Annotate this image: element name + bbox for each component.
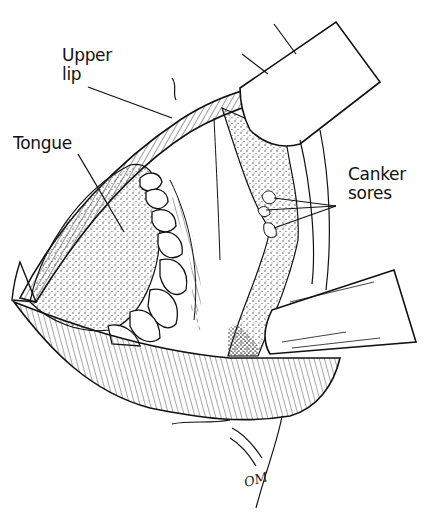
chin xyxy=(172,416,282,508)
label-upper-lip: Upper lip xyxy=(62,46,112,84)
lower-retractor xyxy=(265,270,416,354)
upper-retractor xyxy=(240,22,380,146)
label-canker-line1: Canker xyxy=(348,165,406,184)
label-tongue: Tongue xyxy=(13,134,72,153)
label-upper-lip-line1: Upper xyxy=(62,46,112,65)
label-canker-line2: sores xyxy=(348,184,406,203)
label-upper-lip-line2: lip xyxy=(62,65,112,84)
label-canker-sores: Canker sores xyxy=(348,165,406,203)
tongue xyxy=(30,164,160,330)
